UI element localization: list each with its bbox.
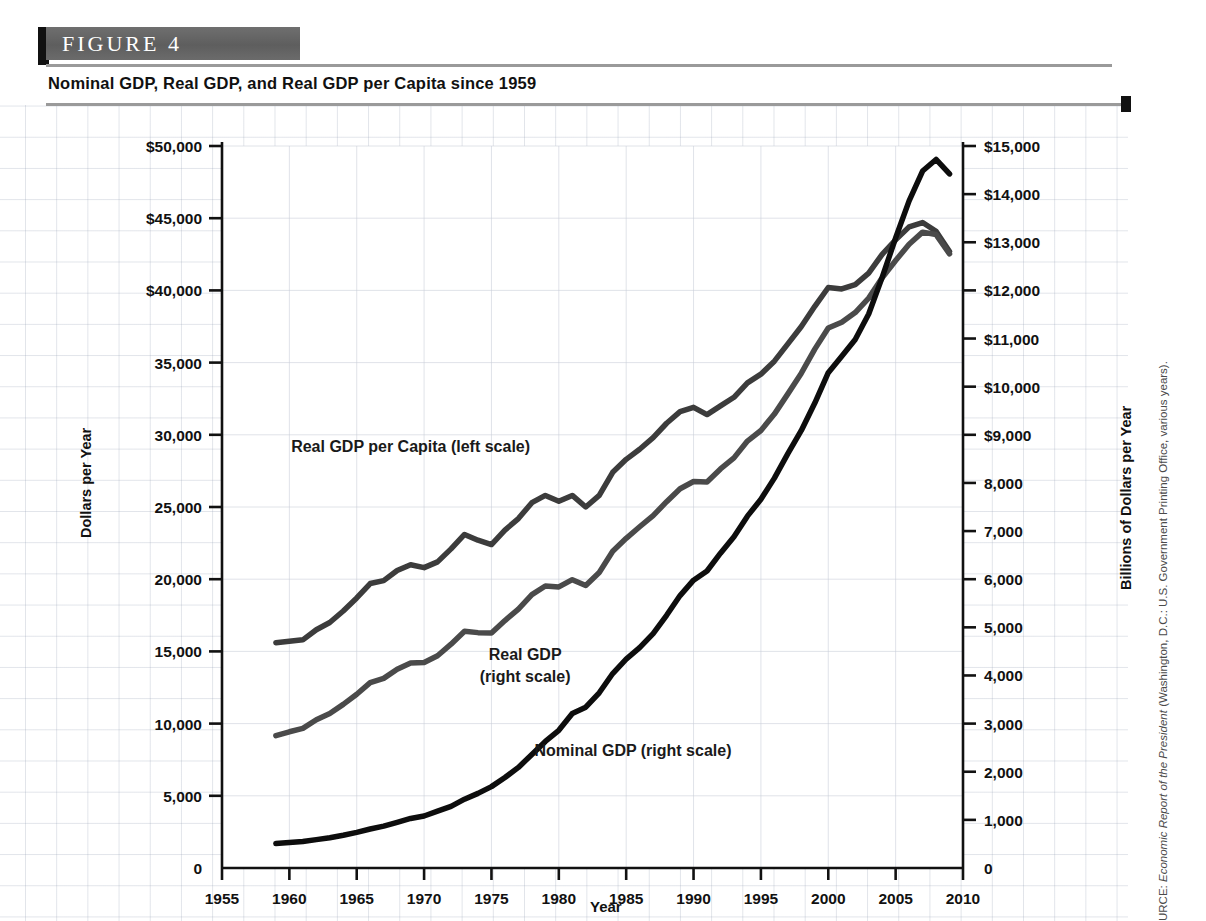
chart-plot-area: 05,00010,00015,00020,00025,00030,00035,0…: [0, 0, 1206, 921]
y-right-tick-label: 4,000: [984, 667, 1023, 684]
y-left-tick-label: 5,000: [163, 788, 202, 805]
x-tick-label: 1980: [542, 890, 576, 907]
x-tick-label: 1970: [407, 890, 441, 907]
x-tick-label: 1955: [205, 890, 240, 907]
y-right-tick-label: 7,000: [984, 523, 1023, 540]
y-left-tick-label: 30,000: [155, 427, 202, 444]
x-tick-label: 1995: [744, 890, 779, 907]
y-left-tick-label: 35,000: [155, 355, 202, 372]
series-annotation: Nominal GDP (right scale): [534, 742, 731, 759]
y-right-tick-label: 0: [984, 860, 993, 877]
x-tick-label: 1990: [676, 890, 710, 907]
y-right-tick-label: 2,000: [984, 764, 1023, 781]
y-left-tick-label: 10,000: [155, 716, 202, 733]
x-axis-ticks: 1955196019651970197519801985199019952000…: [205, 868, 980, 907]
y-right-tick-label: $12,000: [984, 282, 1040, 299]
y-left-tick-label: 15,000: [155, 643, 202, 660]
series-annotation: Real GDP per Capita (left scale): [291, 438, 530, 455]
x-tick-label: 1965: [339, 890, 374, 907]
y-right-tick-label: 6,000: [984, 571, 1023, 588]
y-left-tick-label: $50,000: [146, 138, 202, 155]
x-tick-label: 1985: [609, 890, 644, 907]
source-prefix: URCE:: [1157, 882, 1169, 921]
x-tick-label: 1975: [474, 890, 509, 907]
x-tick-label: 2010: [946, 890, 980, 907]
source-title: Economic Report of the President: [1157, 710, 1169, 882]
series-annotation: (right scale): [480, 668, 571, 685]
chart-svg: 05,00010,00015,00020,00025,00030,00035,0…: [0, 0, 1206, 921]
y-left-tick-label: $40,000: [146, 282, 202, 299]
x-tick-label: 2005: [878, 890, 913, 907]
y-right-tick-label: $15,000: [984, 138, 1040, 155]
y-right-tick-label: $9,000: [984, 427, 1031, 444]
y-left-tick-label: 0: [193, 860, 202, 877]
y-left-tick-label: 25,000: [155, 499, 202, 516]
y-right-tick-label: 5,000: [984, 619, 1023, 636]
y-right-tick-label: $13,000: [984, 234, 1040, 251]
y-right-tick-label: $10,000: [984, 379, 1040, 396]
x-tick-label: 1960: [272, 890, 306, 907]
y-right-tick-label: 3,000: [984, 716, 1023, 733]
y-left-tick-label: 20,000: [155, 571, 202, 588]
y-right-tick-label: $11,000: [984, 331, 1039, 348]
y-axis-left-ticks: 05,00010,00015,00020,00025,00030,00035,0…: [146, 138, 222, 877]
y-right-tick-label: 8,000: [984, 475, 1023, 492]
source-note: URCE: Economic Report of the President (…: [1157, 161, 1169, 921]
y-right-tick-label: $14,000: [984, 186, 1040, 203]
source-rest: (Washington, D.C.: U.S. Government Print…: [1157, 361, 1169, 710]
y-left-tick-label: $45,000: [146, 210, 202, 227]
gridlines: [222, 146, 963, 868]
x-tick-label: 2000: [811, 890, 845, 907]
series-annotation: Real GDP: [489, 646, 562, 663]
y-right-tick-label: 1,000: [984, 812, 1023, 829]
y-axis-right-ticks: 01,0002,0003,0004,0005,0006,0007,0008,00…: [963, 138, 1040, 877]
